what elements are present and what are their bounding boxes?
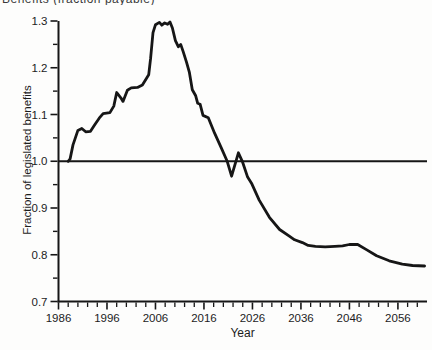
y-tick-label: 0.9 <box>32 202 48 214</box>
cropped-caption-text: Benefits (fraction payable) <box>2 0 262 5</box>
x-axis-title: Year <box>58 326 427 340</box>
x-tick-label: 2036 <box>288 312 314 324</box>
x-tick-label: 1996 <box>94 312 120 324</box>
cropped-caption-fragment: Benefits (fraction payable) <box>2 0 262 5</box>
x-tick-label: 2026 <box>240 312 266 324</box>
y-tick-label: 1.3 <box>32 15 48 27</box>
figure-container: Benefits (fraction payable) 0.70.80.91.0… <box>0 0 432 350</box>
y-axis-title: Fraction of legislated benefits <box>21 75 33 245</box>
x-tick-label: 2006 <box>143 312 169 324</box>
y-tick-label: 0.7 <box>32 296 48 308</box>
y-tick-label: 1.0 <box>32 155 48 167</box>
y-tick-label: 0.8 <box>32 249 48 261</box>
benefits-curve <box>68 22 424 266</box>
x-tick-label: 1986 <box>46 312 72 324</box>
y-tick-label: 1.2 <box>32 62 48 74</box>
x-tick-label: 2046 <box>337 312 363 324</box>
x-tick-label: 2016 <box>191 312 217 324</box>
y-tick-label: 1.1 <box>32 109 48 121</box>
x-tick-label: 2056 <box>385 312 411 324</box>
chart-canvas: 0.70.80.91.01.11.21.31986199620062016202… <box>0 0 432 350</box>
